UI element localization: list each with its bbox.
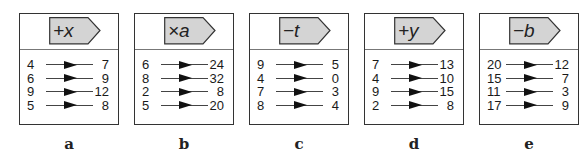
output-value: 7 [547,72,569,86]
mapping-row: 20 12 [480,58,578,72]
arrow-icon [161,78,208,79]
arrowhead-icon [409,74,422,82]
input-value: 15 [487,72,505,86]
mapping-list: 4 7 6 9 9 12 5 8 [20,58,118,112]
input-value: 17 [487,99,505,113]
machine-header: +y [365,14,463,50]
input-value: 5 [27,99,45,113]
mapping-row: 8 4 [250,99,348,113]
output-value: 8 [202,85,224,99]
arrow-icon [161,91,208,92]
input-value: 9 [372,85,390,99]
machine-caption: c [249,135,349,153]
output-value: 8 [87,99,109,113]
machine-header: +x [20,14,118,50]
arrowhead-icon [64,61,77,69]
input-value: 5 [142,99,160,113]
arrow-icon [391,91,438,92]
operation-label: −b [513,20,535,41]
output-value: 12 [547,58,569,72]
mapping-row: 17 9 [480,99,578,113]
output-value: 20 [202,99,224,113]
input-value: 4 [372,72,390,86]
output-value: 7 [87,58,109,72]
operation-tag: ×a [164,17,215,44]
arrowhead-icon [179,88,192,96]
output-value: 24 [202,58,224,72]
arrowhead-icon [294,88,307,96]
mapping-list: 9 5 4 0 7 3 8 4 [250,58,348,112]
arrow-icon [276,78,323,79]
mapping-row: 4 0 [250,72,348,86]
output-value: 0 [317,72,339,86]
operation-tag: +y [394,17,445,44]
arrowhead-icon [64,88,77,96]
mapping-list: 7 13 4 10 9 15 2 8 [365,58,463,112]
machine-box: ×a 6 24 8 32 2 8 5 20 [134,13,234,125]
input-value: 7 [257,85,275,99]
mapping-row: 5 20 [135,99,233,113]
mapping-row: 6 9 [20,72,118,86]
mapping-list: 20 12 15 7 11 3 17 9 [480,58,578,112]
operation-tag: +x [49,17,100,44]
input-value: 11 [487,85,505,99]
machine-header: ×a [135,14,233,50]
operation-tag: −t [279,17,330,44]
arrowhead-icon [64,101,77,109]
arrow-icon [391,64,438,65]
arrow-icon [276,91,323,92]
input-value: 6 [27,72,45,86]
mapping-row: 2 8 [135,85,233,99]
mapping-row: 6 24 [135,58,233,72]
function-machine-a: +x 4 7 6 9 9 12 5 8 a [19,13,119,125]
arrow-icon [161,105,208,106]
output-value: 13 [432,58,454,72]
operation-tag: −b [509,17,560,44]
output-value: 15 [432,85,454,99]
arrow-icon [46,105,93,106]
output-value: 12 [87,85,109,99]
input-value: 20 [487,58,505,72]
arrowhead-icon [524,61,537,69]
output-value: 9 [87,72,109,86]
machine-box: +y 7 13 4 10 9 15 2 8 [364,13,464,125]
arrowhead-icon [409,88,422,96]
operation-label: +y [398,20,419,41]
arrow-icon [506,91,553,92]
arrowhead-icon [409,101,422,109]
arrowhead-icon [294,101,307,109]
function-machine-c: −t 9 5 4 0 7 3 8 4 c [249,13,349,125]
function-machine-d: +y 7 13 4 10 9 15 2 8 d [364,13,464,125]
machine-header: −b [480,14,578,50]
machine-caption: a [19,135,119,153]
arrow-icon [506,64,553,65]
input-value: 7 [372,58,390,72]
arrow-icon [276,64,323,65]
mapping-row: 4 7 [20,58,118,72]
mapping-row: 9 5 [250,58,348,72]
mapping-row: 7 3 [250,85,348,99]
output-value: 8 [432,99,454,113]
mapping-row: 15 7 [480,72,578,86]
output-value: 9 [547,99,569,113]
arrowhead-icon [64,74,77,82]
machine-box: −t 9 5 4 0 7 3 8 4 [249,13,349,125]
machine-caption: e [479,135,579,153]
machine-caption: b [134,135,234,153]
output-value: 3 [547,85,569,99]
input-value: 8 [257,99,275,113]
machine-header: −t [250,14,348,50]
mapping-row: 2 8 [365,99,463,113]
input-value: 8 [142,72,160,86]
output-value: 10 [432,72,454,86]
function-machine-b: ×a 6 24 8 32 2 8 5 20 b [134,13,234,125]
output-value: 4 [317,99,339,113]
arrowhead-icon [179,74,192,82]
input-value: 2 [372,99,390,113]
output-value: 32 [202,72,224,86]
arrowhead-icon [179,101,192,109]
arrow-icon [506,105,553,106]
arrow-icon [46,64,93,65]
machine-box: −b 20 12 15 7 11 3 17 9 [479,13,579,125]
arrow-icon [161,64,208,65]
